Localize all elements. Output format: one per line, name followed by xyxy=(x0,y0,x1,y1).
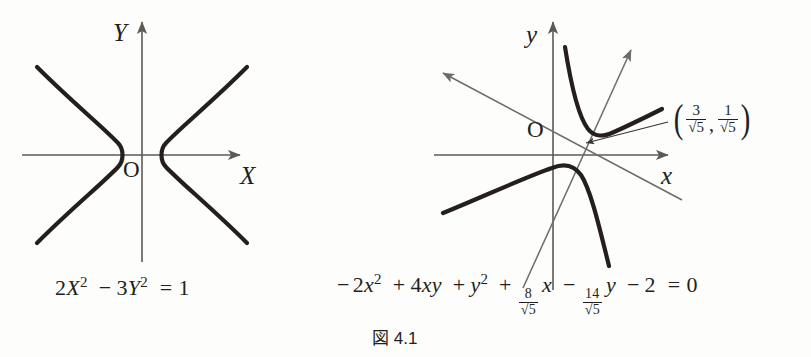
point-second-fraction: 1 √5 xyxy=(718,103,738,136)
right-origin-label: O xyxy=(527,118,544,141)
req-t1-exp: 2 xyxy=(374,271,382,287)
req-t3-var: y xyxy=(470,272,480,297)
point-open-paren: ( xyxy=(674,103,684,135)
req-t3-exp: 2 xyxy=(480,271,488,287)
left-eq-coef-x: 2 xyxy=(55,275,66,300)
req-t4-fraction: 8√5 xyxy=(519,287,538,317)
req-t1-sign: − xyxy=(337,272,350,297)
req-t2-var: xy xyxy=(422,272,442,297)
left-y-axis-label: Y xyxy=(113,20,127,45)
req-t5-var: y xyxy=(606,272,616,297)
req-t2-coef: 4 xyxy=(410,272,421,297)
figure-container: Y X O 2X2 −3Y2 =1 y x O ( 3 √5 , 1 √5 ) … xyxy=(0,0,811,357)
rotated-axis-up-left xyxy=(443,73,682,200)
right-branch-lower xyxy=(443,165,609,266)
req-t6-sign: − xyxy=(627,272,640,297)
left-eq-minus: − xyxy=(99,275,112,300)
point-close-paren: ) xyxy=(741,103,751,135)
left-eq-coef-y: 3 xyxy=(116,275,127,300)
right-equation: −2x2 +4xy +y2 +8√5x −14√5y −2 =0 xyxy=(337,272,698,318)
req-t4-var: x xyxy=(542,272,552,297)
req-t2-sign: + xyxy=(393,272,406,297)
left-equation: 2X2 −3Y2 =1 xyxy=(55,275,190,299)
left-origin-label: O xyxy=(123,158,140,181)
right-branch-upper xyxy=(565,47,662,135)
left-eq-exp-y: 2 xyxy=(140,274,148,290)
req-t4-sign: + xyxy=(499,272,512,297)
left-eq-rhs: 1 xyxy=(179,275,190,300)
req-t1-coef: 2 xyxy=(353,272,364,297)
point-comma: , xyxy=(709,114,714,136)
req-rhs: 0 xyxy=(686,272,697,297)
figure-caption: 図 4.1 xyxy=(372,330,417,347)
req-t3-sign: + xyxy=(453,272,466,297)
left-eq-exp-x: 2 xyxy=(80,274,88,290)
left-eq-equals: = xyxy=(160,275,173,300)
right-y-axis-label: y xyxy=(526,22,537,47)
point-coordinate-label: ( 3 √5 , 1 √5 ) xyxy=(672,103,752,136)
req-t5-sign: − xyxy=(563,272,576,297)
left-eq-var-y: Y xyxy=(128,275,141,300)
req-equals: = xyxy=(668,272,681,297)
req-t5-fraction: 14√5 xyxy=(583,287,602,317)
left-x-axis-label: X xyxy=(240,163,255,188)
req-t1-var: x xyxy=(364,272,374,297)
point-first-fraction: 3 √5 xyxy=(686,103,706,136)
left-eq-var-x: X xyxy=(66,275,80,300)
req-t6-const: 2 xyxy=(645,272,656,297)
right-x-axis-label: x xyxy=(661,163,672,188)
